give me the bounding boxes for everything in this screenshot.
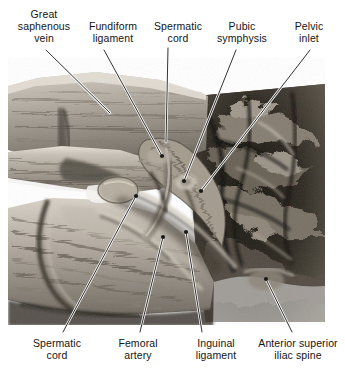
pubic-region (86, 138, 236, 268)
dissection-photograph (0, 0, 345, 371)
label-pubic-symphysis: Pubic symphysis (208, 20, 276, 44)
upper-thigh-slab (8, 146, 180, 194)
label-inguinal-ligament: Inguinal ligament (186, 337, 246, 361)
photo-content (8, 58, 325, 326)
label-femoral-artery: Femoral artery (110, 337, 166, 361)
pelvic-cavity (192, 84, 325, 322)
label-fundiform-ligament: Fundiform ligament (80, 20, 146, 44)
label-great-saphenous-vein: Great saphenous vein (10, 8, 78, 45)
label-spermatic-cord-lower: Spermatic cord (26, 337, 88, 361)
lower-thigh (8, 198, 214, 326)
upper-abdominal-wall (8, 72, 208, 168)
photo-svg (0, 0, 345, 371)
label-spermatic-cord-upper: Spermatic cord (147, 20, 209, 44)
midline-stump (98, 177, 138, 203)
label-anterior-superior-iliac-spine: Anterior superior iliac spine (253, 337, 343, 361)
label-pelvic-inlet: Pelvic inlet (286, 20, 332, 44)
anatomical-figure: Great saphenous vein Fundiform ligament … (0, 0, 345, 371)
asis-region (213, 269, 325, 326)
